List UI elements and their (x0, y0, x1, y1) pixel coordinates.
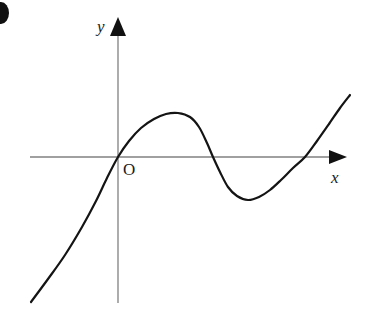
x-axis-arrowhead-icon (329, 150, 347, 164)
cubic-curve (31, 95, 350, 302)
axis-group (30, 17, 347, 303)
origin-label: O (123, 161, 135, 178)
y-axis-label: y (97, 18, 105, 35)
y-axis-arrowhead-icon (110, 17, 126, 36)
figure-canvas: y x O (0, 0, 369, 315)
graph-plot (0, 0, 369, 315)
x-axis-label: x (331, 169, 339, 186)
